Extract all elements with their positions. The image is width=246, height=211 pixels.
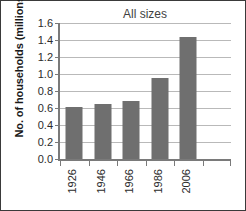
x-axis-tick-mark [230,160,231,166]
chart-figure: No. of households (millions) All sizes 1… [0,0,246,211]
x-axis-tick-mark [174,160,175,166]
y-axis-tick-label: 1.0 [25,68,53,80]
bar-slot [146,23,175,159]
x-axis-tick-mark [117,160,118,166]
x-axis-tick-label: 1926 [66,154,79,194]
y-axis-tick-labels: 1.61.41.21.00.80.60.40.20.0 [25,23,53,159]
y-axis-tick-label: 0.8 [25,85,53,97]
y-axis-tick-label: 0.2 [25,136,53,148]
x-axis-tick-label: 1966 [123,154,136,194]
bar[interactable] [66,107,83,159]
x-axis-tick-mark [60,160,61,166]
bar-slot [89,23,118,159]
bar[interactable] [123,101,140,159]
y-axis-tick-label: 1.2 [25,51,53,63]
x-axis-tick-label: 2006 [180,154,193,194]
y-axis-tick-label: 1.4 [25,34,53,46]
y-axis-tick-label: 0.6 [25,102,53,114]
plot-area [58,23,231,161]
bar-slot [60,23,89,159]
x-axis-tick-mark [203,160,204,166]
bar[interactable] [94,104,111,159]
bar[interactable] [180,37,197,159]
bar-slot [117,23,146,159]
x-axis-tick-label: 1946 [94,154,107,194]
bar[interactable] [151,78,168,159]
x-axis-tick-mark [89,160,90,166]
y-axis-tick-label: 0.4 [25,119,53,131]
x-axis-tick-mark [146,160,147,166]
x-axis-tick-label: 1986 [151,154,164,194]
bar-slot [174,23,203,159]
y-axis-tick-label: 0.0 [25,153,53,165]
chart-title: All sizes [61,7,229,21]
y-axis-tick-label: 1.6 [25,17,53,29]
bar-series [60,23,231,159]
